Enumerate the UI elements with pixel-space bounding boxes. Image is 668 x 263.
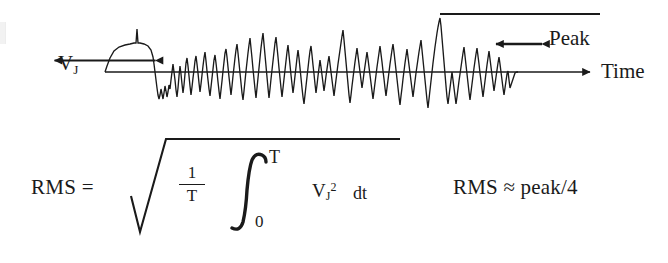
- rms-equation-lhs: RMS =: [31, 177, 94, 198]
- integrand-term: VJ2: [312, 181, 336, 200]
- fraction-numerator: 1: [179, 164, 205, 182]
- integral-upper-limit: T: [269, 148, 280, 166]
- integrand-base: V: [312, 180, 326, 201]
- noise-waveform: [105, 18, 518, 108]
- noise-figure: VJ Peak Time RMS = 1 T T 0 VJ2 dt RMS ≈ …: [0, 0, 668, 263]
- fraction-bar: [179, 184, 205, 185]
- integrand-exponent: 2: [330, 180, 336, 194]
- integral-lower-limit: 0: [255, 213, 264, 230]
- differential-term: dt: [353, 184, 367, 202]
- y-axis-label-subscript: J: [73, 62, 78, 77]
- x-axis-label: Time: [601, 61, 645, 82]
- fraction-denominator: T: [179, 186, 205, 206]
- y-axis-label-base: V: [58, 51, 73, 75]
- y-axis-label: VJ: [58, 53, 78, 74]
- peak-label: Peak: [549, 28, 590, 49]
- rms-approximation: RMS ≈ peak/4: [453, 177, 578, 198]
- fraction-one-over-t: 1 T: [179, 164, 205, 205]
